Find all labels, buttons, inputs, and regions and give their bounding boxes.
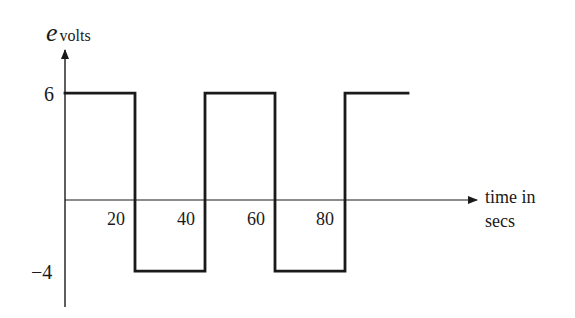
y-axis-label: evolts — [46, 20, 91, 46]
x-tick-20: 20 — [107, 210, 125, 228]
y-tick-6: 6 — [44, 84, 54, 104]
y-axis-symbol: e — [46, 18, 58, 47]
x-axis-label-line1: time in — [485, 188, 536, 206]
x-tick-40: 40 — [177, 210, 195, 228]
square-wave-line — [65, 93, 408, 271]
square-wave-chart — [0, 0, 575, 318]
x-tick-80: 80 — [316, 210, 334, 228]
y-tick-neg4: −4 — [31, 262, 52, 282]
y-axis-subscript: volts — [60, 27, 91, 44]
x-axis-label-line2: secs — [485, 212, 515, 230]
x-tick-60: 60 — [247, 210, 265, 228]
